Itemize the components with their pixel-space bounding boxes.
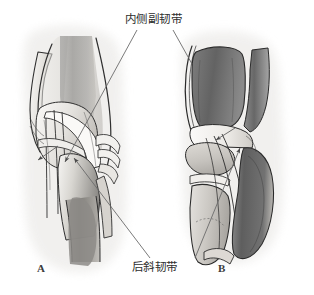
anatomy-illustration-svg (0, 0, 314, 295)
anatomy-figure-root: 内侧副韧带 后斜韧带 A B (0, 0, 314, 295)
label-medial-collateral-ligament: 内侧副韧带 (125, 14, 182, 26)
panel-label-a: A (37, 263, 45, 274)
panel-label-b: B (218, 263, 226, 274)
label-posterior-oblique-ligament: 后斜韧带 (132, 262, 178, 274)
